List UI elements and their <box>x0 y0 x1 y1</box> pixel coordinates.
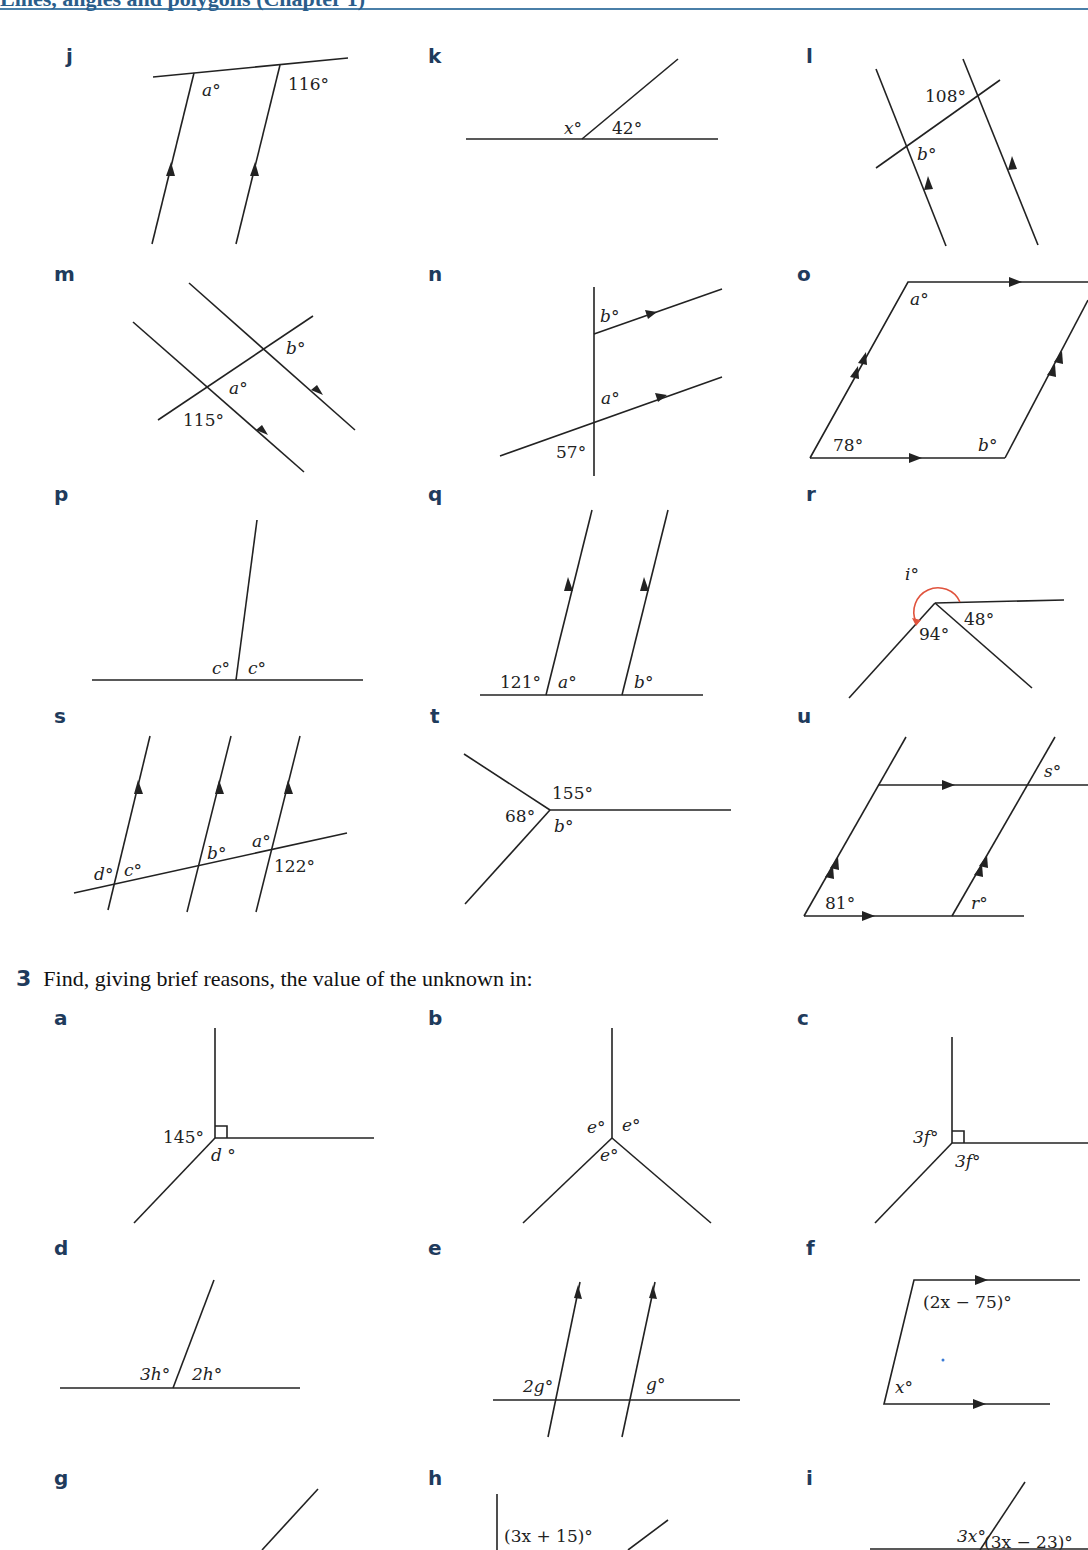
angle-label: g° <box>646 1374 665 1394</box>
angle-label: 2g° <box>522 1376 553 1396</box>
angle-label: (2x − 75)° <box>923 1292 1012 1312</box>
diagram-s: d° c° b° a° 122° <box>74 736 347 912</box>
angle-label: 81° <box>825 893 855 913</box>
angle-label: d ° <box>211 1145 236 1165</box>
diagram-3b: e° e° e° <box>523 1028 711 1223</box>
diagram-3i: 3x° (3x − 23)° <box>870 1482 1088 1550</box>
angle-label: e° <box>600 1145 619 1165</box>
stray-dot <box>942 1359 945 1362</box>
angle-label: b° <box>600 306 619 326</box>
angle-label: 94° <box>919 624 949 644</box>
angle-label: 48° <box>964 609 994 629</box>
angle-label: 3f° <box>913 1127 939 1147</box>
angle-label: i° <box>905 564 919 584</box>
angle-label: b° <box>917 144 936 164</box>
diagrams-canvas: a° 116° x° 42° 108° b° b° <box>0 0 1088 1550</box>
angle-label: a° <box>558 672 577 692</box>
angle-label: b° <box>634 672 653 692</box>
diagram-l: 108° b° <box>876 59 1038 246</box>
angle-label: 68° <box>505 806 535 826</box>
diagram-3g <box>262 1489 318 1550</box>
angle-label: 3h° <box>140 1364 170 1384</box>
diagram-3h: (3x + 15)° <box>497 1494 668 1550</box>
angle-label: a° <box>229 378 248 398</box>
diagram-n: b° a° 57° <box>500 287 722 476</box>
angle-label: a° <box>910 289 929 309</box>
diagram-r: i° 48° 94° <box>849 564 1064 698</box>
angle-label: 57° <box>556 442 586 462</box>
angle-label: a° <box>601 388 620 408</box>
angle-label: c° <box>248 658 266 678</box>
diagram-t: 155° 68° b° <box>464 754 731 904</box>
diagram-k: x° 42° <box>466 59 718 139</box>
angle-label: r° <box>971 893 988 913</box>
diagram-u: s° 81° r° <box>804 737 1088 921</box>
angle-label: c° <box>212 658 230 678</box>
angle-label: 116° <box>288 74 329 94</box>
diagram-p: c° c° <box>92 520 363 680</box>
angle-label: b° <box>207 843 226 863</box>
diagram-j: a° 116° <box>152 58 348 244</box>
angle-label: b° <box>554 816 573 836</box>
angle-label: 3f° <box>955 1151 981 1171</box>
angle-label: a° <box>202 80 221 100</box>
diagram-m: b° a° 115° <box>133 283 355 472</box>
diagram-3c: 3f° 3f° <box>875 1037 1088 1223</box>
angle-label: 108° <box>925 86 966 106</box>
angle-label: 121° <box>500 672 541 692</box>
diagram-3a: 145° d ° <box>134 1028 374 1223</box>
angle-label: x° <box>564 118 582 138</box>
angle-label: 3x° <box>957 1526 986 1546</box>
angle-label: (3x − 23)° <box>984 1532 1073 1550</box>
angle-label: e° <box>587 1117 606 1137</box>
angle-label: x° <box>895 1377 913 1397</box>
angle-label: 2h° <box>191 1364 222 1384</box>
angle-label: 42° <box>612 118 642 138</box>
angle-label: c° <box>124 860 142 880</box>
diagram-o: a° 78° b° <box>810 277 1088 463</box>
diagram-3f: (2x − 75)° x° <box>884 1275 1080 1409</box>
angle-label: 78° <box>833 435 863 455</box>
exercise-page: j k l m n o p q r s t u 3Find, giving br… <box>0 0 1088 1550</box>
angle-label: b° <box>978 435 997 455</box>
angle-label: e° <box>622 1115 641 1135</box>
angle-label: 155° <box>552 783 593 803</box>
angle-label: b° <box>286 338 305 358</box>
diagram-3e: 2g° g° <box>493 1282 740 1437</box>
angle-label: a° <box>252 831 271 851</box>
angle-label: 115° <box>183 410 224 430</box>
angle-label: 122° <box>274 856 315 876</box>
diagram-3d: 3h° 2h° <box>60 1280 300 1388</box>
angle-label: (3x + 15)° <box>504 1526 593 1546</box>
angle-label: d° <box>94 864 113 884</box>
angle-label: s° <box>1044 761 1061 781</box>
diagram-q: 121° a° b° <box>480 510 703 695</box>
angle-label: 145° <box>163 1127 204 1147</box>
